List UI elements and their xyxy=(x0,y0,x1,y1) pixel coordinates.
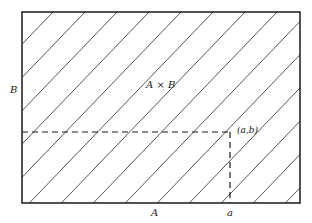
hatch-line xyxy=(157,12,312,203)
hatch-lines xyxy=(0,12,312,203)
hatch-line xyxy=(189,12,312,203)
hatch-line xyxy=(285,12,312,203)
point-ab-label: (a,b) xyxy=(237,126,258,135)
hatch-line xyxy=(0,12,85,203)
hatch-line xyxy=(0,12,21,203)
set-a-label: A xyxy=(151,208,158,218)
hatch-line xyxy=(253,12,312,203)
hatch-line xyxy=(0,12,117,203)
coordinate-a-label: a xyxy=(227,208,233,218)
cartesian-product-figure xyxy=(0,0,312,223)
hatch-line xyxy=(0,12,181,203)
product-set-rectangle xyxy=(22,12,300,203)
hatch-line xyxy=(221,12,312,203)
set-b-label: B xyxy=(10,85,17,95)
hatch-line xyxy=(0,12,53,203)
product-label: A × B xyxy=(146,80,175,90)
